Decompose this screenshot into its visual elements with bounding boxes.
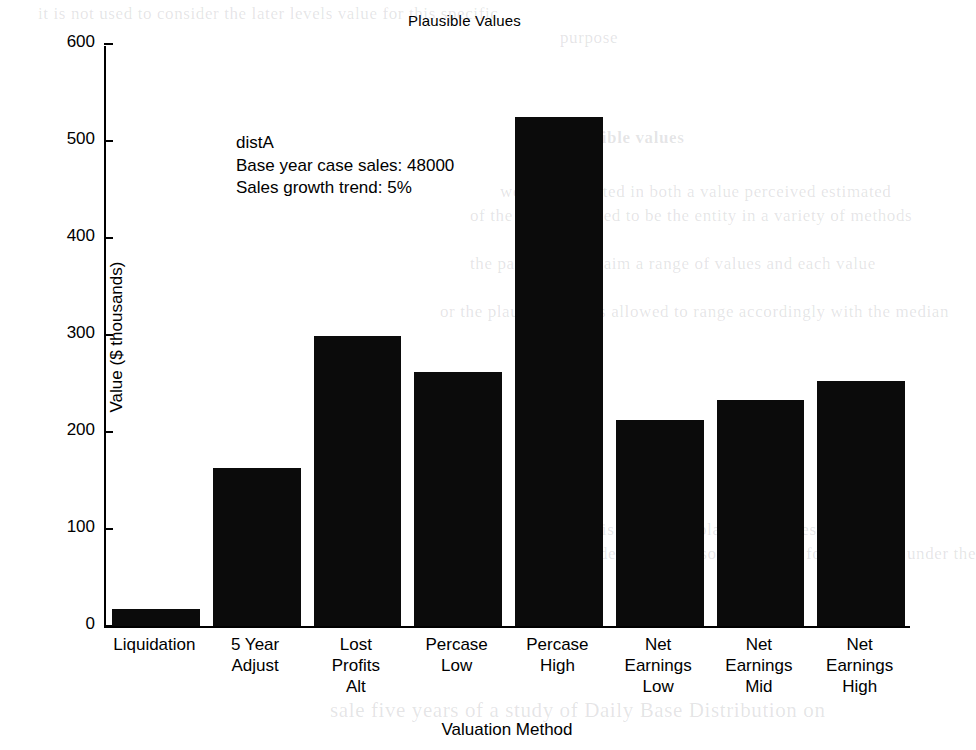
bar (213, 468, 301, 626)
plot-area: 0100200300400500600 Liquidation5 YearAdj… (104, 46, 910, 628)
x-axis-tick-label: NetEarningsLow (608, 634, 709, 697)
bar (414, 372, 502, 626)
y-axis-tick-label: 400 (67, 226, 95, 246)
y-axis-tick: 100 (104, 528, 113, 530)
x-axis-tick-label: PercaseLow (406, 634, 507, 676)
bar (717, 400, 805, 626)
x-axis-tick-label: NetEarningsHigh (809, 634, 910, 697)
bar (314, 336, 402, 626)
y-axis-line (104, 46, 106, 628)
annotation-line-growth-trend: Sales growth trend: 5% (236, 177, 454, 200)
annotation-block: distA Base year case sales: 48000 Sales … (236, 132, 454, 200)
y-axis-tick: 200 (104, 431, 113, 433)
annotation-line-base-sales: Base year case sales: 48000 (236, 155, 454, 178)
x-axis-tick-label: NetEarningsMid (709, 634, 810, 697)
x-axis-tick-label: LostProfitsAlt (306, 634, 407, 697)
y-axis-tick-label: 600 (67, 32, 95, 52)
x-axis-tick-label: Liquidation (104, 634, 205, 655)
x-axis-line (104, 626, 910, 628)
x-axis-tick-label: 5 YearAdjust (205, 634, 306, 676)
y-axis-tick: 500 (104, 140, 113, 142)
x-axis-title: Valuation Method (104, 720, 910, 740)
x-axis-tick-label: PercaseHigh (507, 634, 608, 676)
y-axis-tick-label: 0 (86, 614, 95, 634)
y-axis-tick-label: 100 (67, 517, 95, 537)
y-axis-tick-label: 200 (67, 420, 95, 440)
y-axis-tick: 600 (104, 43, 113, 45)
annotation-line-dist: distA (236, 132, 454, 155)
bar (817, 381, 905, 626)
y-axis-tick-label: 500 (67, 129, 95, 149)
bar (515, 117, 603, 626)
bar (616, 420, 704, 626)
y-axis-tick-label: 300 (67, 323, 95, 343)
bar (112, 609, 200, 626)
y-axis-tick: 400 (104, 237, 113, 239)
chart-title: Plausible Values (0, 12, 929, 29)
y-axis-title: Value ($ thousands) (107, 262, 127, 413)
